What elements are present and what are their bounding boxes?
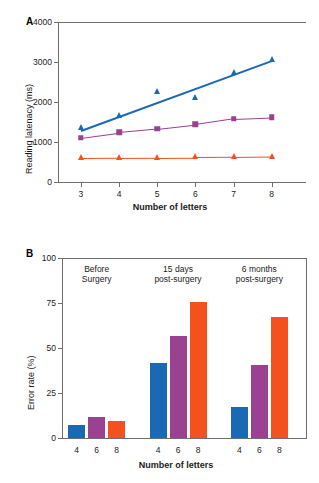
y-tick xyxy=(58,348,62,349)
bar xyxy=(170,336,187,438)
x-tick xyxy=(234,183,235,187)
x-tick-label: 6 xyxy=(94,445,99,455)
group-label-line2: post-surgery xyxy=(236,274,283,284)
group-label-line2: post-surgery xyxy=(154,274,201,284)
plot-top-rule xyxy=(58,22,306,23)
y-tick xyxy=(58,393,62,394)
purple-squares-point xyxy=(231,116,237,122)
purple-squares-point xyxy=(116,130,122,136)
y-tick-label: 75 xyxy=(26,298,56,308)
purple-squares-line xyxy=(233,117,271,120)
x-tick-label: 8 xyxy=(277,445,282,455)
y-axis-title: Error rate (%) xyxy=(26,355,36,410)
y-tick-label: 0 xyxy=(26,433,56,443)
blue-triangles-point xyxy=(154,88,160,94)
purple-squares-point xyxy=(154,126,160,132)
purple-squares-point xyxy=(193,122,199,128)
x-tick-label: 3 xyxy=(79,189,84,199)
y-tick xyxy=(54,182,58,183)
orange-triangles-line xyxy=(157,157,195,159)
orange-triangles-point xyxy=(154,154,160,160)
x-axis-title: Number of letters xyxy=(133,202,208,212)
y-tick xyxy=(54,142,58,143)
blue-triangles-point xyxy=(116,112,122,118)
y-axis-line xyxy=(58,22,59,183)
x-tick xyxy=(272,183,273,187)
blue-triangles-point xyxy=(78,124,84,130)
x-tick-label: 4 xyxy=(237,445,242,455)
purple-squares-line xyxy=(157,124,195,130)
bar xyxy=(68,425,85,439)
group-label-line2: Surgery xyxy=(82,274,112,284)
x-tick-label: 8 xyxy=(196,445,201,455)
x-tick xyxy=(195,183,196,187)
bar xyxy=(251,365,268,438)
orange-triangles-point xyxy=(192,153,198,159)
purple-squares-line xyxy=(81,132,119,139)
purple-squares-point xyxy=(269,114,275,120)
blue-triangles-point xyxy=(231,69,237,75)
x-tick-label: 8 xyxy=(269,189,274,199)
y-tick-label: 3000 xyxy=(24,57,52,67)
y-axis-title: Reading latenacy (ms) xyxy=(24,84,34,174)
bar xyxy=(190,302,207,438)
orange-triangles-line xyxy=(233,157,271,159)
x-tick-label: 5 xyxy=(155,189,160,199)
group-label-line1: Before xyxy=(82,264,112,274)
y-tick-label: 4000 xyxy=(24,17,52,27)
orange-triangles-line xyxy=(195,157,233,159)
group-label: BeforeSurgery xyxy=(82,264,112,284)
panel-b-plot-area: 0255075100Error rate (%)BeforeSurgery468… xyxy=(0,240,319,483)
group-label: 15 dayspost-surgery xyxy=(154,264,201,284)
x-tick-label: 6 xyxy=(176,445,181,455)
y-tick xyxy=(58,303,62,304)
y-tick-label: 50 xyxy=(26,343,56,353)
group-label: 6 monthspost-surgery xyxy=(236,264,283,284)
x-axis-line xyxy=(62,438,306,439)
blue-triangles-point xyxy=(269,56,275,62)
x-tick-label: 8 xyxy=(114,445,119,455)
bar xyxy=(108,421,125,438)
group-label-line1: 6 months xyxy=(236,264,283,274)
panel-a: A 01000200030004000345678Number of lette… xyxy=(0,0,319,230)
bar xyxy=(150,363,167,438)
x-tick-label: 6 xyxy=(257,445,262,455)
purple-squares-line xyxy=(119,129,157,134)
blue-triangles-fit-line xyxy=(81,60,272,132)
figure-container: A 01000200030004000345678Number of lette… xyxy=(0,0,319,483)
x-axis-line xyxy=(58,182,306,183)
x-tick-label: 4 xyxy=(74,445,79,455)
y-tick xyxy=(58,258,62,259)
group-label-line1: 15 days xyxy=(154,264,201,274)
y-tick-label: 0 xyxy=(24,177,52,187)
plot-top-rule xyxy=(62,258,306,259)
panel-a-plot-area: 01000200030004000345678Number of letters… xyxy=(0,0,319,230)
x-tick-label: 7 xyxy=(231,189,236,199)
purple-squares-point xyxy=(78,135,84,141)
orange-triangles-point xyxy=(231,153,237,159)
y-tick xyxy=(54,102,58,103)
x-tick xyxy=(157,183,158,187)
orange-triangles-point xyxy=(116,154,122,160)
orange-triangles-line xyxy=(81,158,119,160)
y-tick xyxy=(54,22,58,23)
x-tick-label: 4 xyxy=(117,189,122,199)
y-tick xyxy=(58,438,62,439)
x-tick xyxy=(119,183,120,187)
orange-triangles-point xyxy=(269,153,275,159)
bar xyxy=(231,407,248,439)
y-tick xyxy=(54,62,58,63)
purple-squares-line xyxy=(195,119,233,126)
orange-triangles-point xyxy=(78,154,84,160)
x-axis-title: Number of letters xyxy=(139,460,214,470)
y-tick-label: 100 xyxy=(26,253,56,263)
plot-right-rule xyxy=(306,258,307,439)
orange-triangles-line xyxy=(119,158,157,160)
blue-triangles-point xyxy=(192,94,198,100)
panel-b: B 0255075100Error rate (%)BeforeSurgery4… xyxy=(0,240,319,483)
y-axis-line xyxy=(62,258,63,439)
x-tick-label: 4 xyxy=(156,445,161,455)
bar xyxy=(88,417,105,438)
bar xyxy=(271,317,288,438)
x-tick-label: 6 xyxy=(193,189,198,199)
